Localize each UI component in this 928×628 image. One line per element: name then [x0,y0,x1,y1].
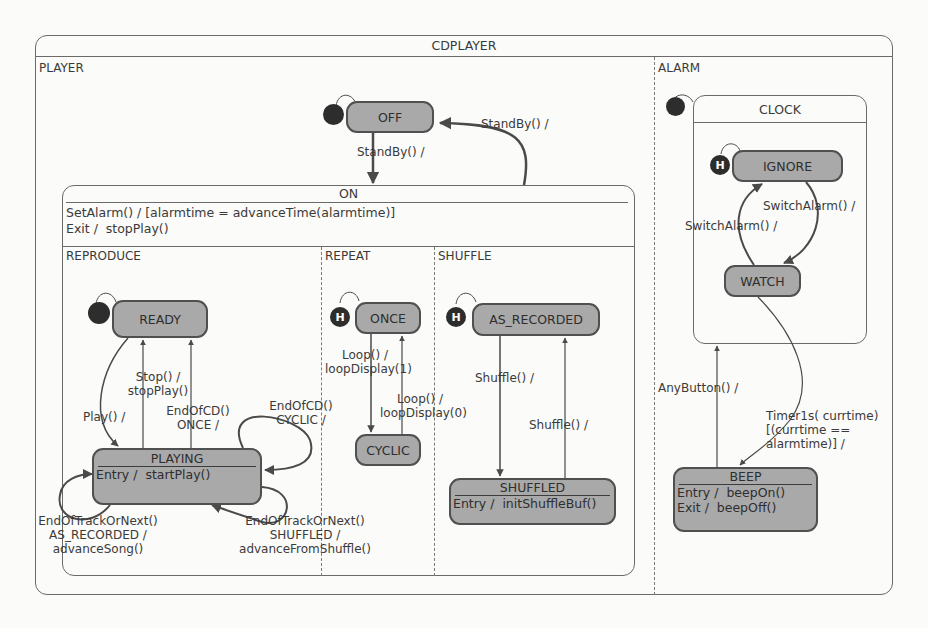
on-state-title: ON [62,186,635,201]
transition-label-stop: Stop() / stopPlay() [108,370,208,398]
state-ignore[interactable]: IGNORE [732,150,843,182]
repeat-history-pseudostate: H [330,307,350,327]
on-action-setalarm: SetAlarm() / [alarmtime = advanceTime(al… [66,206,395,220]
transition-label-loop-to-once: Loop() / loopDisplay(0) [380,392,460,420]
transition-label-standby-on-off: StandBy() / [481,117,548,131]
state-beep-entry-action: Entry / beepOn() [675,485,816,500]
reproduce-initial-pseudostate [88,302,110,324]
transition-label-switchalarm-to-ignore: SwitchAlarm() / [685,219,777,233]
transition-label-next-shuffled: EndOfTrackOrNext() SHUFFLED / advanceFro… [230,514,380,556]
state-off-label: OFF [378,110,402,125]
alarm-initial-pseudostate [666,97,685,116]
state-ready-label: READY [139,312,181,327]
state-cyclic[interactable]: CYCLIC [355,434,421,466]
state-cyclic-label: CYCLIC [366,443,410,458]
state-shuffled-label: SHUFFLED [451,480,614,495]
state-ready[interactable]: READY [112,300,208,338]
region-shuffle-label: SHUFFLE [438,249,492,263]
cdplayer-header-divider [35,56,893,57]
state-playing-label: PLAYING [94,451,260,466]
state-as-recorded[interactable]: AS_RECORDED [472,303,600,336]
on-action-exit: Exit / stopPlay() [66,222,169,236]
state-shuffled-entry-action: Entry / initShuffleBuf() [451,496,614,511]
player-initial-pseudostate [323,104,344,125]
state-once-label: ONCE [370,311,406,326]
transition-label-endofcd-cyclic: EndOfCD() CYCLIC / [256,399,346,427]
transition-label-loop-to-cyclic: Loop() / loopDisplay(1) [325,348,405,376]
on-header-divider [66,202,628,203]
state-as-recorded-label: AS_RECORDED [489,312,583,327]
clock-header-divider [693,122,867,123]
state-ignore-label: IGNORE [763,159,812,174]
transition-label-shuffle-off: Shuffle() / [529,418,588,432]
state-playing[interactable]: PLAYING Entry / startPlay() [92,448,262,505]
transition-label-play: Play() / [83,410,125,424]
transition-label-switchalarm-to-watch: SwitchAlarm() / [763,199,855,213]
on-regions-divider [62,246,635,247]
shuffle-history-pseudostate: H [446,307,466,327]
state-watch-label: WATCH [740,274,784,289]
transition-label-shuffle-on: Shuffle() / [475,371,534,385]
region-player-label: PLAYER [39,61,84,75]
state-off[interactable]: OFF [346,101,434,133]
region-repeat-label: REPEAT [325,249,370,263]
transition-label-endofcd-once: EndOfCD() ONCE / [148,404,248,432]
transition-label-standby-off-on: StandBy() / [357,145,424,159]
transition-label-anybutton: AnyButton() / [658,381,738,395]
cdplayer-title: CDPLAYER [35,38,893,53]
transition-label-timer: Timer1s( currtime) [(currtime == alarmti… [766,409,878,451]
clock-history-pseudostate: H [710,155,730,175]
region-reproduce-label: REPRODUCE [66,249,141,263]
state-once[interactable]: ONCE [355,302,421,334]
region-alarm-label: ALARM [658,61,700,75]
clock-state-title: CLOCK [693,102,867,117]
player-alarm-divider [654,57,655,595]
transition-label-next-as-recorded: EndOfTrackOrNext() AS_RECORDED / advance… [33,514,163,556]
state-beep-label: BEEP [675,469,816,484]
state-watch[interactable]: WATCH [724,265,801,297]
state-beep-exit-action: Exit / beepOff() [675,500,816,515]
state-playing-entry-action: Entry / startPlay() [94,467,260,482]
state-beep[interactable]: BEEP Entry / beepOn() Exit / beepOff() [673,467,818,532]
state-shuffled[interactable]: SHUFFLED Entry / initShuffleBuf() [449,478,616,525]
